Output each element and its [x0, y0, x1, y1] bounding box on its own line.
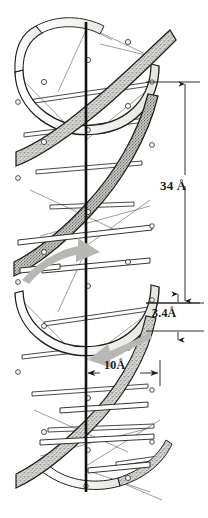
dna-helix-illustration [0, 0, 208, 518]
pitch-label: 34 Å [160, 178, 186, 194]
diameter-label: 10Å [104, 358, 125, 373]
rise-label: 3.4Å [152, 306, 176, 321]
dna-double-helix-figure: 34 Å 3.4Å 10Å [0, 0, 208, 518]
